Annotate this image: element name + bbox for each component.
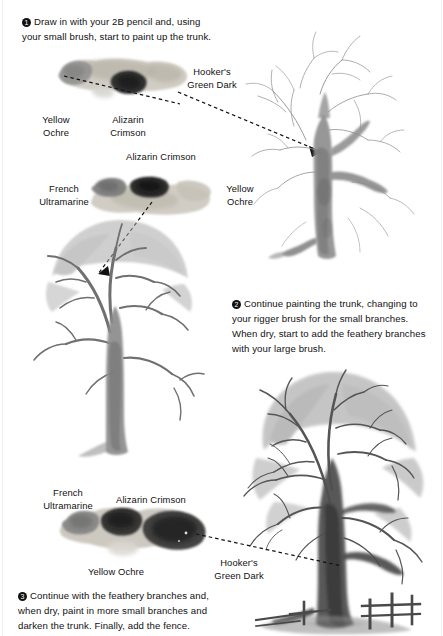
step-2-text: Continue painting the trunk, changing to…: [232, 298, 426, 354]
step-2-bullet: 2: [232, 300, 241, 309]
label-yellow-ochre-mid: Yellow Ochre: [212, 183, 268, 208]
label-yellow-ochre-bottom: Yellow Ochre: [66, 566, 166, 579]
step-2-instruction: 2Continue painting the trunk, changing t…: [232, 296, 432, 356]
label-alizarin-crimson-mid: Alizarin Crimson: [106, 151, 216, 164]
label-yellow-ochre-top: Yellow Ochre: [26, 114, 86, 139]
label-alizarin-crimson-top: Alizarin Crimson: [95, 114, 161, 139]
step-3-bullet: 3: [18, 592, 27, 601]
step-1-bullet: 1: [22, 18, 31, 27]
step-3-instruction: 3Continue with the feathery branches and…: [18, 588, 223, 633]
step-3-text: Continue with the feathery branches and,…: [18, 590, 209, 631]
step-1-instruction: 1Draw in with your 2B pencil and, using …: [22, 14, 222, 44]
artwork-tree-step-2: [24, 212, 214, 462]
page-left-rule: [2, 0, 3, 636]
step-1-text: Draw in with your 2B pencil and, using y…: [22, 16, 211, 42]
label-hookers-green-dark-bottom: Hooker's Green Dark: [201, 557, 277, 582]
label-french-ultramarine-mid: French Ultramarine: [25, 183, 103, 208]
label-alizarin-crimson-bottom: Alizarin Crimson: [96, 494, 206, 507]
illustration-page: 1Draw in with your 2B pencil and, using …: [0, 0, 443, 636]
artwork-tree-step-3: [230, 362, 443, 636]
artwork-tree-step-1: [228, 22, 443, 292]
